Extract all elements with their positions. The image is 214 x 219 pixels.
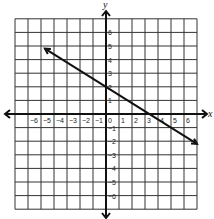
y-tick-label: −6 (108, 193, 116, 200)
y-tick-label: 3 (108, 70, 112, 77)
x-tick-label: 3 (147, 117, 151, 124)
y-tick-label: −4 (108, 165, 116, 172)
x-axis-label: x (207, 108, 213, 119)
y-tick-label: −3 (108, 152, 116, 159)
x-tick-label: −2 (82, 117, 90, 124)
x-tick-label: 0 (108, 117, 112, 124)
y-tick-label: 5 (108, 43, 112, 50)
x-tick-label: 5 (173, 117, 177, 124)
coordinate-plane: −6−5−4−3−2−10123456654321−1−2−3−4−5−6 x … (0, 0, 214, 219)
x-tick-label: −5 (43, 117, 51, 124)
y-axis-label: y (102, 0, 108, 10)
x-tick-label: −4 (56, 117, 64, 124)
plotted-line (45, 49, 197, 144)
x-tick-label: −1 (95, 117, 103, 124)
axes (5, 11, 207, 218)
x-tick-label: 1 (121, 117, 125, 124)
x-tick-label: −6 (30, 117, 38, 124)
y-tick-label: −5 (108, 179, 116, 186)
y-tick-label: 4 (108, 57, 112, 64)
y-tick-label: −1 (108, 125, 116, 132)
x-tick-label: −3 (69, 117, 77, 124)
y-tick-label: 6 (108, 29, 112, 36)
x-tick-label: 6 (186, 117, 190, 124)
x-tick-label: 2 (134, 117, 138, 124)
y-tick-label: −2 (108, 138, 116, 145)
series-line (45, 49, 197, 144)
y-tick-label: 1 (108, 97, 112, 104)
